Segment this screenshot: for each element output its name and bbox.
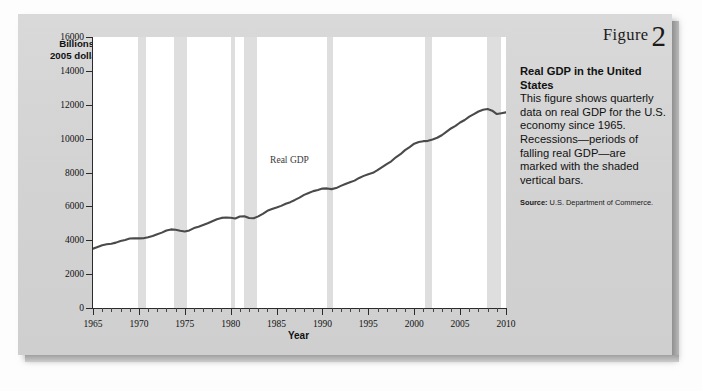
x-axis-tick xyxy=(93,308,94,315)
figure-number: Figure2 xyxy=(520,22,666,51)
x-axis-tick-label: 2000 xyxy=(405,319,424,329)
x-axis-tick xyxy=(368,308,369,315)
plot-area: 0200040006000800010000120001400016000196… xyxy=(92,37,506,309)
x-axis-minor-tick xyxy=(378,308,379,312)
x-axis-tick xyxy=(506,308,507,315)
x-axis-minor-tick xyxy=(451,308,452,312)
x-axis-minor-tick xyxy=(387,308,388,312)
x-axis-minor-tick xyxy=(121,308,122,312)
y-axis-tick-label: 8000 xyxy=(65,168,84,178)
x-axis-minor-tick xyxy=(130,308,131,312)
x-axis-tick xyxy=(277,308,278,315)
x-axis-minor-tick xyxy=(442,308,443,312)
y-axis-tick xyxy=(86,206,93,207)
gdp-line-series xyxy=(93,37,506,308)
y-axis-tick-label: 2000 xyxy=(65,269,84,279)
x-axis-minor-tick xyxy=(249,308,250,312)
y-axis-tick xyxy=(86,139,93,140)
y-axis-tick-label: 10000 xyxy=(60,134,84,144)
x-axis-title: Year xyxy=(92,330,505,341)
x-axis-tick-label: 1975 xyxy=(175,319,194,329)
y-axis-tick xyxy=(86,71,93,72)
y-axis-tick xyxy=(86,105,93,106)
x-axis-minor-tick xyxy=(469,308,470,312)
x-axis-minor-tick xyxy=(396,308,397,312)
x-axis-minor-tick xyxy=(176,308,177,312)
x-axis-minor-tick xyxy=(111,308,112,312)
y-axis-tick xyxy=(86,308,93,309)
x-axis-tick-label: 1965 xyxy=(84,319,103,329)
panel-shadow-right xyxy=(672,21,679,362)
series-annotation-real-gdp: Real GDP xyxy=(270,155,309,165)
x-axis-minor-tick xyxy=(212,308,213,312)
x-axis-minor-tick xyxy=(488,308,489,312)
y-axis-tick xyxy=(86,274,93,275)
x-axis-minor-tick xyxy=(405,308,406,312)
x-axis-tick-label: 1995 xyxy=(359,319,378,329)
caption-column: Figure2 Real GDP in the United States Th… xyxy=(520,22,666,347)
x-axis-minor-tick xyxy=(166,308,167,312)
x-axis-tick xyxy=(231,308,232,315)
x-axis-minor-tick xyxy=(295,308,296,312)
x-axis-minor-tick xyxy=(350,308,351,312)
y-axis-tick-label: 14000 xyxy=(60,66,84,76)
x-axis-minor-tick xyxy=(497,308,498,312)
y-axis-tick-label: 12000 xyxy=(60,100,84,110)
x-axis-minor-tick xyxy=(286,308,287,312)
y-axis-tick-label: 16000 xyxy=(60,32,84,42)
x-axis-minor-tick xyxy=(157,308,158,312)
x-axis-minor-tick xyxy=(304,308,305,312)
y-axis-tick-label: 6000 xyxy=(65,201,84,211)
x-axis-tick-label: 2010 xyxy=(497,319,516,329)
x-axis-tick xyxy=(322,308,323,315)
x-axis-minor-tick xyxy=(203,308,204,312)
x-axis-minor-tick xyxy=(433,308,434,312)
source-text: U.S. Department of Commerce. xyxy=(550,198,654,207)
x-axis-minor-tick xyxy=(313,308,314,312)
x-axis-minor-tick xyxy=(423,308,424,312)
source-label: Source: xyxy=(520,198,548,207)
x-axis-tick xyxy=(414,308,415,315)
figure-numeral: 2 xyxy=(652,20,667,52)
x-axis-tick-label: 1990 xyxy=(313,319,332,329)
x-axis-tick xyxy=(185,308,186,315)
x-axis-minor-tick xyxy=(194,308,195,312)
x-axis-minor-tick xyxy=(359,308,360,312)
y-axis-tick xyxy=(86,37,93,38)
x-axis-minor-tick xyxy=(341,308,342,312)
figure-panel: Billions of 2005 dollars 020004000600080… xyxy=(18,14,672,355)
x-axis-tick-label: 1985 xyxy=(267,319,286,329)
y-axis-tick-label: 0 xyxy=(79,303,84,313)
x-axis-tick xyxy=(460,308,461,315)
x-axis-minor-tick xyxy=(240,308,241,312)
x-axis-tick-label: 1980 xyxy=(221,319,240,329)
caption-source: Source: U.S. Department of Commerce. xyxy=(520,198,666,208)
y-axis-tick-label: 4000 xyxy=(65,235,84,245)
real-gdp-line xyxy=(93,109,506,249)
x-axis-minor-tick xyxy=(332,308,333,312)
x-axis-tick-label: 1970 xyxy=(129,319,148,329)
x-axis-minor-tick xyxy=(221,308,222,312)
caption-title: Real GDP in the United States xyxy=(520,65,666,92)
x-axis-minor-tick xyxy=(267,308,268,312)
x-axis-tick-label: 2005 xyxy=(451,319,470,329)
figure-word: Figure xyxy=(603,25,648,44)
x-axis-minor-tick xyxy=(478,308,479,312)
x-axis-minor-tick xyxy=(148,308,149,312)
caption-body: This figure shows quarterly data on real… xyxy=(520,92,666,187)
x-axis-minor-tick xyxy=(102,308,103,312)
x-axis-minor-tick xyxy=(258,308,259,312)
x-axis-tick xyxy=(139,308,140,315)
panel-shadow-bottom xyxy=(25,355,679,362)
y-axis-tick xyxy=(86,173,93,174)
y-axis-tick xyxy=(86,240,93,241)
